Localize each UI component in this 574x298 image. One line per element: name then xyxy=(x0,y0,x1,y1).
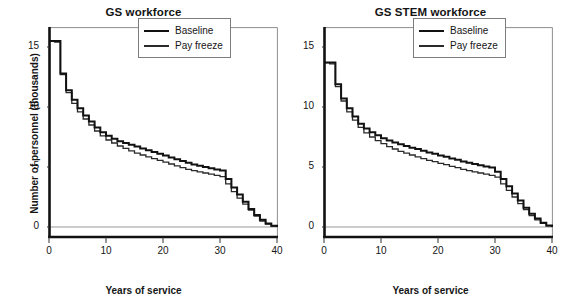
x-tick-label: 0 xyxy=(311,245,337,256)
y-tick-label: 10 xyxy=(15,100,39,111)
x-tick-label: 10 xyxy=(368,245,394,256)
y-tick-label: 5 xyxy=(15,160,39,171)
chart-title-right: GS STEM workforce xyxy=(287,6,574,18)
legend-label-pay-freeze: Pay freeze xyxy=(175,40,223,51)
legend-label-baseline: Baseline xyxy=(175,25,213,36)
y-tick-label: 0 xyxy=(290,220,314,231)
legend-item-pay-freeze: Pay freeze xyxy=(419,38,498,53)
legend-right: Baseline Pay freeze xyxy=(413,18,506,58)
figure-root: GS workforce Number of personnel (thousa… xyxy=(0,0,574,298)
legend-label-pay-freeze: Pay freeze xyxy=(450,40,498,51)
legend-left: Baseline Pay freeze xyxy=(138,18,231,58)
legend-item-pay-freeze: Pay freeze xyxy=(144,38,223,53)
series-line-baseline xyxy=(49,41,277,227)
plot-svg-right xyxy=(322,27,553,249)
x-tick-label: 20 xyxy=(425,245,451,256)
y-axis-label: Number of personnel (thousands) xyxy=(29,44,40,224)
legend-line-icon-pay-freeze xyxy=(144,45,169,47)
y-tick-label: 10 xyxy=(290,100,314,111)
legend-item-baseline: Baseline xyxy=(419,23,498,38)
chart-title-left: GS workforce xyxy=(0,6,287,18)
legend-line-icon-baseline xyxy=(419,30,444,32)
legend-item-baseline: Baseline xyxy=(144,23,223,38)
x-tick-label: 40 xyxy=(539,245,565,256)
plot-area-left xyxy=(47,27,278,249)
x-tick-label: 30 xyxy=(207,245,233,256)
x-tick-label: 10 xyxy=(93,245,119,256)
y-tick-label: 5 xyxy=(290,160,314,171)
y-tick-label: 15 xyxy=(15,40,39,51)
panel-gs-workforce: GS workforce Number of personnel (thousa… xyxy=(0,0,287,298)
x-tick-label: 20 xyxy=(150,245,176,256)
legend-label-baseline: Baseline xyxy=(450,25,488,36)
legend-line-icon-pay-freeze xyxy=(419,45,444,47)
x-tick-label: 30 xyxy=(482,245,508,256)
series-line-pay-freeze xyxy=(324,63,552,227)
legend-line-icon-baseline xyxy=(144,30,169,32)
x-axis-label-left: Years of service xyxy=(0,285,287,296)
plot-svg-left xyxy=(47,27,278,249)
y-tick-label: 0 xyxy=(15,220,39,231)
y-tick-label: 15 xyxy=(290,40,314,51)
plot-area-right xyxy=(322,27,553,249)
panel-gs-stem-workforce: GS STEM workforce Years of service Basel… xyxy=(287,0,574,298)
x-axis-label-right: Years of service xyxy=(287,285,574,296)
x-tick-label: 0 xyxy=(36,245,62,256)
